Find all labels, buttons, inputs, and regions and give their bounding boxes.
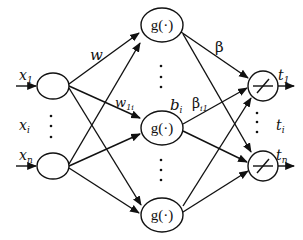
weight-label-w: w [90,46,103,64]
input-node-n [37,153,69,179]
input-label-x1: x1 [19,67,33,85]
ellipsis-dot [50,136,53,139]
weight-label-beta: β [215,38,224,56]
ellipsis-dot [160,86,163,89]
hidden-layer: g(·) g(·) g(·) [141,8,183,232]
edge-xn-hi [69,134,140,166]
weight-label-w1i: w1i [115,95,134,112]
ellipsis-dot [160,159,163,162]
output-layer [248,71,278,181]
ellipsis-dot [256,112,259,115]
edge-hi-tn [183,131,247,162]
edge-xn-hn [69,168,139,213]
input-hidden-edges [69,33,141,213]
input-layer [37,73,69,179]
ellipsis-dot [160,65,163,68]
neural-network-diagram: g(·) g(·) g(·) x1 xi xn w w1i [0,0,303,240]
ellipsis-dot [160,179,163,182]
input-node-1 [37,73,69,99]
output-label-ti: ti [276,117,285,135]
hidden-node-i-label: g(·) [151,120,174,137]
ellipsis-dot [256,131,259,134]
input-label-xn: xn [19,147,33,165]
ellipsis-dot [160,169,163,172]
hidden-node-1-label: g(·) [151,17,174,34]
ellipsis-dot [50,125,53,128]
edge-x1-h1 [69,33,139,84]
hidden-node-n-label: g(·) [151,207,174,224]
ellipsis-dot [256,121,259,124]
ellipsis-dot [160,76,163,79]
bias-label-bi: bi [170,96,183,115]
edge-x1-hi [69,86,140,118]
output-label-t1: t1 [278,67,289,85]
hidden-output-edges [181,32,251,212]
output-label-tn: tn [276,147,288,165]
ellipsis-dot [50,115,53,118]
input-label-xi: xi [19,117,30,135]
weight-label-beta-i1: βi1 [192,95,208,113]
